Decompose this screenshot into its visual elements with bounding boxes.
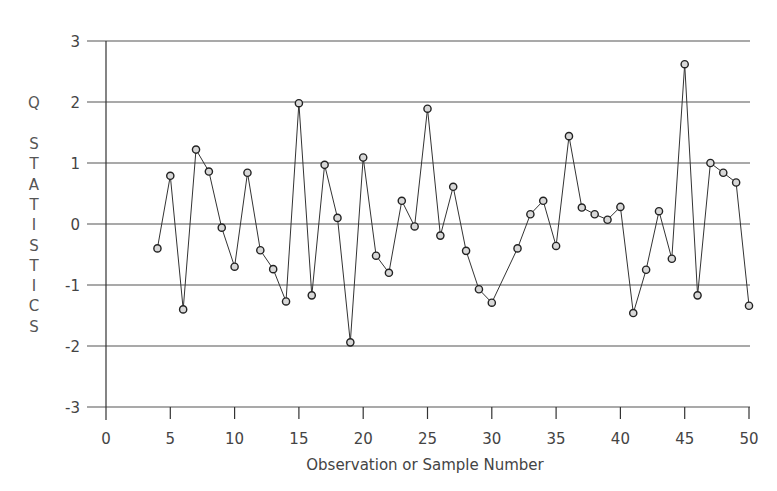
data-point-marker xyxy=(655,208,662,215)
y-title-letter: Q xyxy=(28,94,40,112)
data-point-marker xyxy=(257,247,264,254)
data-point-marker xyxy=(321,161,328,168)
data-point-marker xyxy=(372,252,379,259)
data-point-marker xyxy=(578,204,585,211)
data-point-marker xyxy=(643,266,650,273)
y-title-letter: S xyxy=(29,237,39,255)
y-tick-label: 3 xyxy=(70,33,80,51)
x-tick-label: 25 xyxy=(418,430,437,448)
data-point-marker xyxy=(707,159,714,166)
data-point-marker xyxy=(604,216,611,223)
data-point-marker xyxy=(385,269,392,276)
data-point-marker xyxy=(565,133,572,140)
x-tick-label: 5 xyxy=(166,430,176,448)
data-point-marker xyxy=(205,168,212,175)
data-point-marker xyxy=(553,242,560,249)
y-tick-label: -2 xyxy=(65,338,80,356)
data-point-marker xyxy=(154,245,161,252)
x-tick-label: 45 xyxy=(675,430,694,448)
x-tick-label: 30 xyxy=(482,430,501,448)
data-point-marker xyxy=(527,211,534,218)
data-point-marker xyxy=(231,263,238,270)
y-title-letter: I xyxy=(32,216,36,234)
data-point-marker xyxy=(192,146,199,153)
y-title-letter: I xyxy=(32,277,36,295)
data-point-marker xyxy=(733,179,740,186)
x-axis-ticks: 05101520253035404550 xyxy=(101,407,758,448)
x-tick-label: 15 xyxy=(289,430,308,448)
data-point-marker xyxy=(270,266,277,273)
data-point-marker xyxy=(334,214,341,221)
y-tick-label: -1 xyxy=(65,277,80,295)
y-axis-tick-labels: 3210-1-2-3 xyxy=(65,33,80,417)
horizontal-gridlines xyxy=(87,41,750,407)
data-point-marker xyxy=(450,183,457,190)
y-title-letter: T xyxy=(28,257,39,275)
data-point-marker xyxy=(488,299,495,306)
data-point-marker xyxy=(437,232,444,239)
data-point-marker xyxy=(360,154,367,161)
y-tick-label: -3 xyxy=(65,399,80,417)
data-point-marker xyxy=(462,247,469,254)
data-point-marker xyxy=(617,203,624,210)
data-point-marker xyxy=(411,223,418,230)
x-tick-label: 35 xyxy=(547,430,566,448)
data-point-marker xyxy=(694,292,701,299)
y-title-letter: A xyxy=(29,176,40,194)
y-title-letter: C xyxy=(29,297,39,315)
x-tick-label: 0 xyxy=(101,430,111,448)
y-axis-title: QSTATISTICS xyxy=(28,94,40,336)
data-point-marker xyxy=(295,100,302,107)
data-point-marker xyxy=(668,255,675,262)
data-point-marker xyxy=(180,306,187,313)
data-point-marker xyxy=(244,169,251,176)
data-point-marker xyxy=(540,197,547,204)
data-point-marker xyxy=(308,292,315,299)
data-point-marker xyxy=(347,339,354,346)
data-point-marker xyxy=(218,224,225,231)
y-title-letter: T xyxy=(28,155,39,173)
data-point-marker xyxy=(630,309,637,316)
data-point-marker xyxy=(282,298,289,305)
y-tick-label: 0 xyxy=(70,216,80,234)
y-title-letter: S xyxy=(29,318,39,336)
x-tick-label: 20 xyxy=(354,430,373,448)
data-point-marker xyxy=(424,105,431,112)
y-tick-label: 2 xyxy=(70,94,80,112)
data-point-marker xyxy=(398,197,405,204)
y-title-letter: T xyxy=(28,196,39,214)
data-point-marker xyxy=(681,61,688,68)
x-tick-label: 50 xyxy=(739,430,758,448)
x-tick-label: 10 xyxy=(225,430,244,448)
data-point-marker xyxy=(167,172,174,179)
x-axis-title: Observation or Sample Number xyxy=(306,456,544,474)
q-statistic-line xyxy=(157,64,749,342)
q-statistics-chart: 3210-1-2-3 05101520253035404550 QSTATIST… xyxy=(0,0,777,491)
x-tick-label: 40 xyxy=(611,430,630,448)
y-tick-label: 1 xyxy=(70,155,80,173)
data-point-marker xyxy=(591,211,598,218)
y-title-letter: S xyxy=(29,135,39,153)
data-point-marker xyxy=(475,286,482,293)
data-point-marker xyxy=(514,245,521,252)
data-point-marker xyxy=(745,302,752,309)
data-point-marker xyxy=(720,169,727,176)
